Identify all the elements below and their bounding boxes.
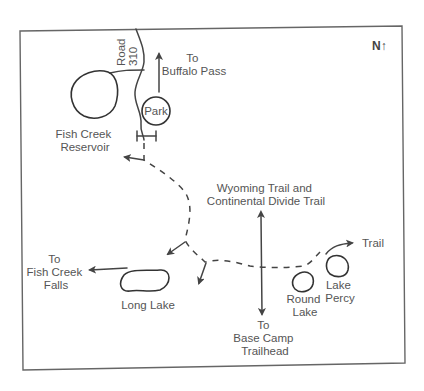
to-buffalo-pass-label: To Buffalo Pass (162, 52, 227, 77)
lake-percy-label: Lake Percy (325, 279, 355, 304)
wyoming-trail-double-arrow-icon (261, 216, 262, 314)
long-lake-label: Long Lake (121, 299, 175, 311)
road-310 (135, 29, 144, 140)
south-branch-arrow-icon (199, 263, 206, 283)
trailhead-gate-icon (137, 131, 156, 141)
fish-creek-reservoir-lake (71, 71, 117, 118)
to-fish-creek-falls-arrow-icon (90, 268, 127, 270)
wyoming-trail-label: Wyoming Trail and Continental Divide Tra… (207, 182, 325, 207)
reservoir-road-spur (110, 70, 144, 73)
to-fish-creek-falls-label: To Fish Creek Falls (27, 253, 86, 291)
long-lake (121, 270, 169, 291)
reservoir-trail-arrow-icon (125, 157, 144, 160)
round-lake-label: Round Lake (286, 293, 323, 318)
round-lake (293, 272, 314, 292)
long-lake-branch-arrow-icon (168, 242, 185, 254)
park-label: Park (144, 105, 168, 117)
north-compass-icon: N↑ (372, 39, 387, 53)
trail-label: Trail (362, 237, 384, 249)
fish-creek-reservoir-label: Fish Creek Reservoir (56, 128, 115, 153)
trail-map: N↑ Road 310 Fish Creek Reservoir Park To… (0, 0, 424, 391)
lake-percy (326, 256, 348, 277)
to-base-camp-trailhead-label: To Base Camp Trailhead (233, 319, 296, 357)
east-trail-arrow-icon (326, 243, 352, 254)
road-label: Road 310 (115, 35, 139, 66)
